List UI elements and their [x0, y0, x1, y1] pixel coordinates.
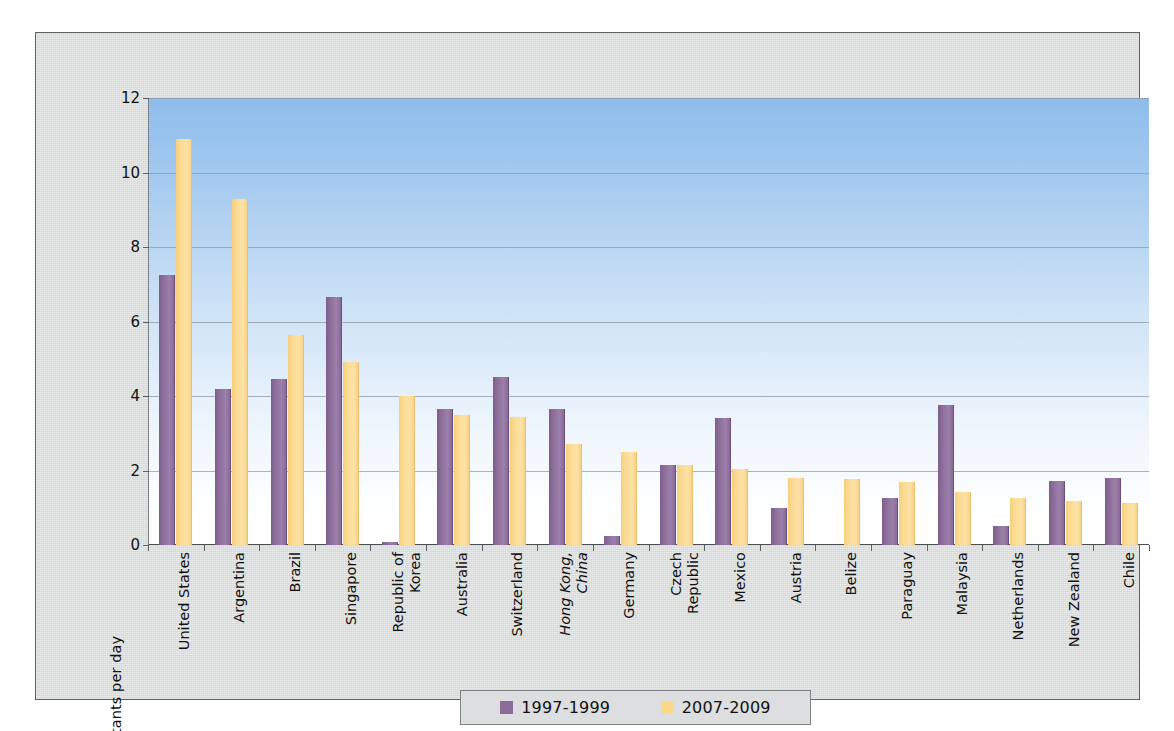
- bar-series2: [788, 478, 804, 545]
- x-axis-tick-mark: [1038, 545, 1039, 551]
- x-axis-tick-label-line: New Zealand: [1066, 552, 1083, 647]
- x-axis-tick-mark: [649, 545, 650, 551]
- y-axis-tick-label: 12: [100, 89, 140, 107]
- x-axis-tick-mark: [370, 545, 371, 551]
- bar-series1: [660, 465, 676, 545]
- x-axis-tick-mark: [815, 545, 816, 551]
- bar-series2: [844, 479, 860, 545]
- x-axis-tick-mark: [982, 545, 983, 551]
- bar-series2: [454, 415, 470, 545]
- x-axis-tick-mark: [315, 545, 316, 551]
- x-axis-tick-label-line: United States: [176, 552, 193, 650]
- x-axis-tick-label-line: Republic: [685, 552, 702, 614]
- bar-series1: [326, 297, 342, 545]
- legend-label: 1997-1999: [521, 698, 610, 717]
- bar-series1: [938, 405, 954, 545]
- bar-series2: [399, 396, 415, 545]
- x-axis-tick-label-line: Brazil: [287, 552, 304, 592]
- y-axis-tick-labels: 024681012: [96, 98, 140, 545]
- bar-series2: [899, 482, 915, 545]
- x-axis-tick-label-line: Korea: [407, 552, 424, 593]
- x-axis-tick-label-line: Australia: [454, 552, 471, 616]
- y-axis-tick-label: 0: [100, 536, 140, 554]
- bar-series2: [677, 465, 693, 545]
- legend-item: 2007-2009: [661, 698, 771, 717]
- x-axis-tick-mark: [537, 545, 538, 551]
- x-axis-tick-label-line: Republic of: [390, 552, 407, 633]
- bar-series1: [271, 379, 287, 545]
- bar-series2: [288, 335, 304, 545]
- legend-item: 1997-1999: [500, 698, 610, 717]
- x-axis-tick-mark: [482, 545, 483, 551]
- bar-series-container: [148, 98, 1149, 545]
- legend-label: 2007-2009: [682, 698, 771, 717]
- bar-series1: [1049, 481, 1065, 545]
- x-axis-tick-label-line: Switzerland: [509, 552, 526, 637]
- bar-series2: [566, 444, 582, 545]
- bar-series2: [621, 452, 637, 545]
- x-axis-tick-label-line: Argentina: [231, 552, 248, 623]
- x-axis-tick-marks: [148, 545, 1149, 552]
- x-axis-tick-label-line: Czech: [668, 552, 685, 596]
- x-axis-tick-mark: [593, 545, 594, 551]
- bar-series1: [159, 275, 175, 545]
- y-axis-title: S-DDD per 1,000 inhabitants per day: [108, 547, 124, 731]
- x-axis-tick-mark: [204, 545, 205, 551]
- x-axis-tick-mark: [927, 545, 928, 551]
- x-axis-tick-label-line: Austria: [788, 552, 805, 603]
- bar-series1: [493, 377, 509, 545]
- bar-series1: [1105, 478, 1121, 545]
- bar-series2: [1066, 501, 1082, 545]
- x-axis-tick-mark: [760, 545, 761, 551]
- y-axis-tick-label: 6: [100, 313, 140, 331]
- x-axis-tick-mark: [148, 545, 149, 551]
- x-axis-tick-labels: United StatesArgentinaBrazilSingaporeRep…: [148, 552, 1149, 682]
- x-axis-tick-label-line: Malaysia: [954, 552, 971, 615]
- x-axis-tick-label-line: Mexico: [732, 552, 749, 603]
- x-axis-tick-mark: [1149, 545, 1150, 551]
- x-axis-tick-label-line: Hong Kong,: [557, 552, 574, 636]
- x-axis-tick-label-line: Chile: [1121, 552, 1138, 588]
- x-axis-tick-label-line: China: [574, 552, 591, 593]
- y-axis-tick-label: 2: [100, 462, 140, 480]
- bar-series1: [715, 418, 731, 545]
- bar-series1: [771, 508, 787, 545]
- bar-series1: [215, 389, 231, 545]
- bar-series2: [343, 362, 359, 545]
- bar-series1: [549, 409, 565, 545]
- chart-card: S-DDD per 1,000 inhabitants per day 0246…: [35, 32, 1140, 700]
- bar-series2: [1122, 503, 1138, 545]
- bar-series2: [232, 199, 248, 545]
- bar-series2: [1010, 498, 1026, 545]
- x-axis-tick-mark: [259, 545, 260, 551]
- x-axis-tick-label-line: Singapore: [343, 552, 360, 625]
- x-axis-tick-label-line: Paraguay: [899, 552, 916, 620]
- bar-series1: [882, 498, 898, 545]
- x-axis-tick-label-line: Germany: [621, 552, 638, 619]
- chart-legend: 1997-19992007-2009: [460, 690, 811, 725]
- y-axis-tick-label: 8: [100, 238, 140, 256]
- legend-swatch: [500, 701, 513, 714]
- bar-series2: [955, 492, 971, 545]
- legend-swatch: [661, 701, 674, 714]
- x-axis-tick-mark: [1093, 545, 1094, 551]
- x-axis-tick-mark: [426, 545, 427, 551]
- y-axis-tick-label: 4: [100, 387, 140, 405]
- x-axis-tick-mark: [871, 545, 872, 551]
- bar-series1: [437, 409, 453, 545]
- x-axis-tick-label-line: Netherlands: [1010, 552, 1027, 640]
- bar-series2: [510, 417, 526, 546]
- bar-series2: [176, 139, 192, 545]
- x-axis-tick-label-line: Belize: [843, 552, 860, 595]
- y-axis-tick-label: 10: [100, 164, 140, 182]
- bar-series1: [993, 526, 1009, 545]
- bar-series2: [732, 469, 748, 545]
- chart-page: S-DDD per 1,000 inhabitants per day 0246…: [0, 0, 1174, 731]
- x-axis-tick-mark: [704, 545, 705, 551]
- bar-series1: [604, 536, 620, 545]
